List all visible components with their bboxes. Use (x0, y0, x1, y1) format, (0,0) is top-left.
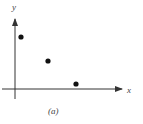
data-point-3 (73, 81, 78, 86)
y-axis-label: y (11, 2, 16, 12)
figure-caption: (a) (48, 106, 59, 116)
data-point-1 (18, 34, 23, 39)
scatter-diagram: y x (a) (0, 0, 143, 124)
x-axis-label: x (126, 85, 131, 95)
data-point-2 (45, 58, 50, 63)
